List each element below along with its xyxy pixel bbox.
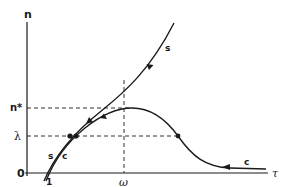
diagram-svg: n τ 0 1 ω n* λ s s c c (0, 0, 293, 187)
y-tick-nstar-label: n* (10, 102, 23, 113)
c-curve-label-lower: c (62, 151, 67, 161)
origin-label: 0 (17, 167, 25, 180)
lambda-intersection-dot-right (176, 134, 181, 139)
c-curve (46, 108, 266, 181)
x-tick-omega-label: ω (119, 176, 128, 187)
c-curve-label-tail: c (244, 157, 249, 167)
s-curve-arrow-upper (147, 64, 154, 70)
y-tick-lambda-label: λ (14, 130, 21, 143)
lambda-intersection-dot-left (67, 133, 72, 138)
x-axis-label: τ (272, 167, 279, 180)
y-axis-label: n (24, 8, 32, 21)
lambda-intersection-dot-left-2 (73, 133, 78, 138)
s-curve-label-upper: s (165, 43, 170, 53)
c-curve-arrow-tail (222, 164, 230, 170)
x-tick-one-label: 1 (46, 177, 52, 187)
phase-diagram: n τ 0 1 ω n* λ s s c c (0, 0, 293, 187)
s-curve-label-lower: s (48, 151, 53, 161)
